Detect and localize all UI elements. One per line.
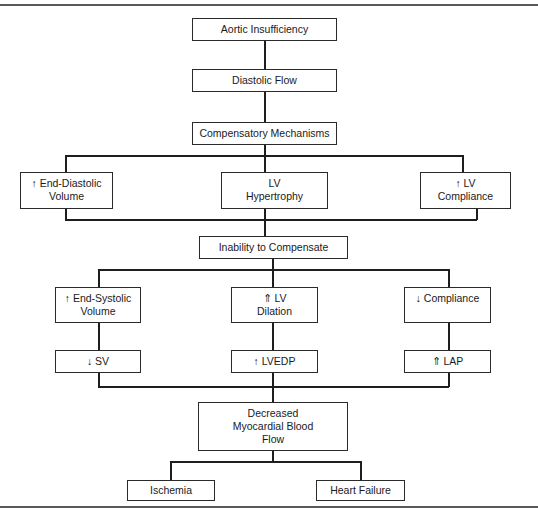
- connector: [448, 322, 450, 350]
- connector: [98, 322, 100, 350]
- node-heart-failure: Heart Failure: [316, 480, 405, 501]
- connector: [462, 155, 464, 172]
- node-label: Inability to Compensate: [219, 241, 329, 254]
- connector: [65, 155, 463, 157]
- connector: [65, 219, 477, 221]
- node-label: Heart Failure: [330, 484, 391, 497]
- node-diastolic-flow: Diastolic Flow: [192, 69, 337, 92]
- node-compensatory-mechanisms: Compensatory Mechanisms: [192, 122, 337, 145]
- connector: [448, 269, 450, 287]
- connector: [65, 155, 67, 172]
- node-lv-hypertrophy: LV Hypertrophy: [221, 172, 328, 209]
- node-lvedp: ↑ LVEDP: [231, 350, 318, 373]
- node-ischemia: Ischemia: [127, 480, 215, 501]
- connector: [448, 372, 450, 387]
- node-lap: ⇑ LAP: [404, 350, 491, 373]
- connector: [170, 461, 362, 463]
- node-inability-to-compensate: Inability to Compensate: [199, 236, 348, 259]
- node-decreased-myocardial-blood-flow: Decreased Myocardial Blood Flow: [198, 402, 348, 451]
- connector: [170, 461, 172, 480]
- connector: [264, 40, 266, 69]
- node-label: Decreased Myocardial Blood Flow: [233, 407, 314, 446]
- node-label: ↑ LV Compliance: [438, 177, 493, 203]
- node-label: Aortic Insufficiency: [221, 23, 308, 36]
- node-decreased-compliance: ↓ Compliance: [404, 287, 491, 323]
- node-end-diastolic-volume: ↑ End-Diastolic Volume: [20, 172, 113, 209]
- connector: [272, 258, 274, 402]
- node-sv: ↓ SV: [55, 350, 141, 373]
- connector: [98, 269, 100, 287]
- node-lv-dilation: ⇑ LV Dilation: [231, 287, 318, 323]
- node-label: ↓ SV: [87, 355, 109, 368]
- node-label: ⇑ LAP: [432, 355, 464, 368]
- node-label: ⇑ LV Dilation: [257, 292, 292, 318]
- connector: [360, 461, 362, 480]
- top-rule: [0, 4, 538, 6]
- node-label: Diastolic Flow: [232, 74, 297, 87]
- bottom-rule: [0, 506, 538, 508]
- connector: [264, 91, 266, 122]
- node-label: Compensatory Mechanisms: [199, 127, 329, 140]
- node-end-systolic-volume: ↑ End-Systolic Volume: [55, 287, 141, 323]
- connector: [98, 372, 100, 387]
- node-label: LV Hypertrophy: [246, 177, 303, 203]
- node-label: ↑ LVEDP: [254, 355, 296, 368]
- connector: [98, 269, 449, 271]
- node-label: ↑ End-Diastolic Volume: [31, 177, 101, 203]
- connector: [98, 386, 449, 388]
- node-label: ↓ Compliance: [416, 292, 480, 305]
- node-label: Ischemia: [150, 484, 192, 497]
- node-label: ↑ End-Systolic Volume: [65, 292, 132, 318]
- node-lv-compliance: ↑ LV Compliance: [420, 172, 511, 209]
- node-aortic-insufficiency: Aortic Insufficiency: [192, 18, 337, 41]
